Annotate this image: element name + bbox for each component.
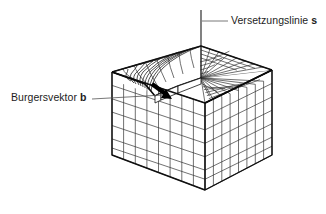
label-dislocation-line-text: Versetzungslinie — [231, 14, 308, 26]
label-burgers-vector-symbol: b — [77, 91, 86, 103]
label-burgers-vector: Burgersvektor b — [11, 91, 86, 103]
label-dislocation-line-symbol: s — [308, 14, 317, 26]
leader-burgers-vector — [92, 95, 163, 99]
label-burgers-vector-text: Burgersvektor — [11, 91, 77, 103]
label-dislocation-line: Versetzungslinie s — [231, 14, 317, 26]
screw-dislocation-diagram — [0, 0, 326, 214]
figure-canvas: Versetzungslinie s Burgersvektor b — [0, 0, 326, 214]
